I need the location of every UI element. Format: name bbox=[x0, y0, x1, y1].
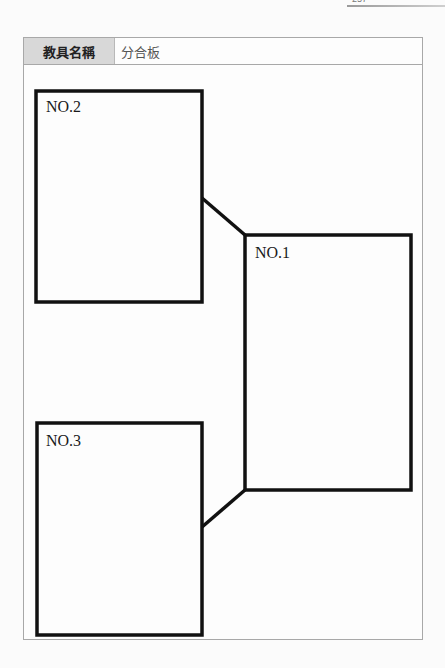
panel-no3 bbox=[37, 423, 202, 635]
hinge-line-top bbox=[202, 198, 245, 235]
panel-no2 bbox=[36, 91, 202, 302]
panel-no2-label: NO.2 bbox=[46, 98, 81, 116]
panel-no1-label: NO.1 bbox=[255, 244, 290, 262]
hinge-line-bottom bbox=[202, 490, 245, 527]
panel-no3-label: NO.3 bbox=[46, 432, 81, 450]
panel-no1 bbox=[245, 235, 411, 490]
